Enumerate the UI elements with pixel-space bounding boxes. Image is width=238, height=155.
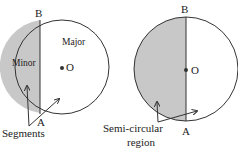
semicircle-shade	[134, 17, 186, 121]
left-label-b: B	[35, 7, 42, 19]
semicircular-label-line1: Semi-circular	[103, 122, 163, 134]
right-label-o: O	[191, 64, 199, 76]
right-label-a: A	[182, 125, 190, 137]
semicircular-label-line2: region	[127, 136, 156, 148]
minor-label: Minor	[12, 58, 37, 68]
left-circle-figure	[0, 20, 109, 126]
segments-label: Segments	[2, 127, 45, 139]
major-label: Major	[62, 37, 86, 47]
left-label-o: O	[66, 61, 74, 73]
right-center-dot	[184, 68, 188, 72]
diagram-canvas: B A O Major Minor Segments B A O Semi-ci…	[0, 0, 238, 155]
right-circle-figure	[134, 17, 238, 122]
right-label-b: B	[181, 3, 188, 15]
left-center-dot	[60, 66, 64, 70]
